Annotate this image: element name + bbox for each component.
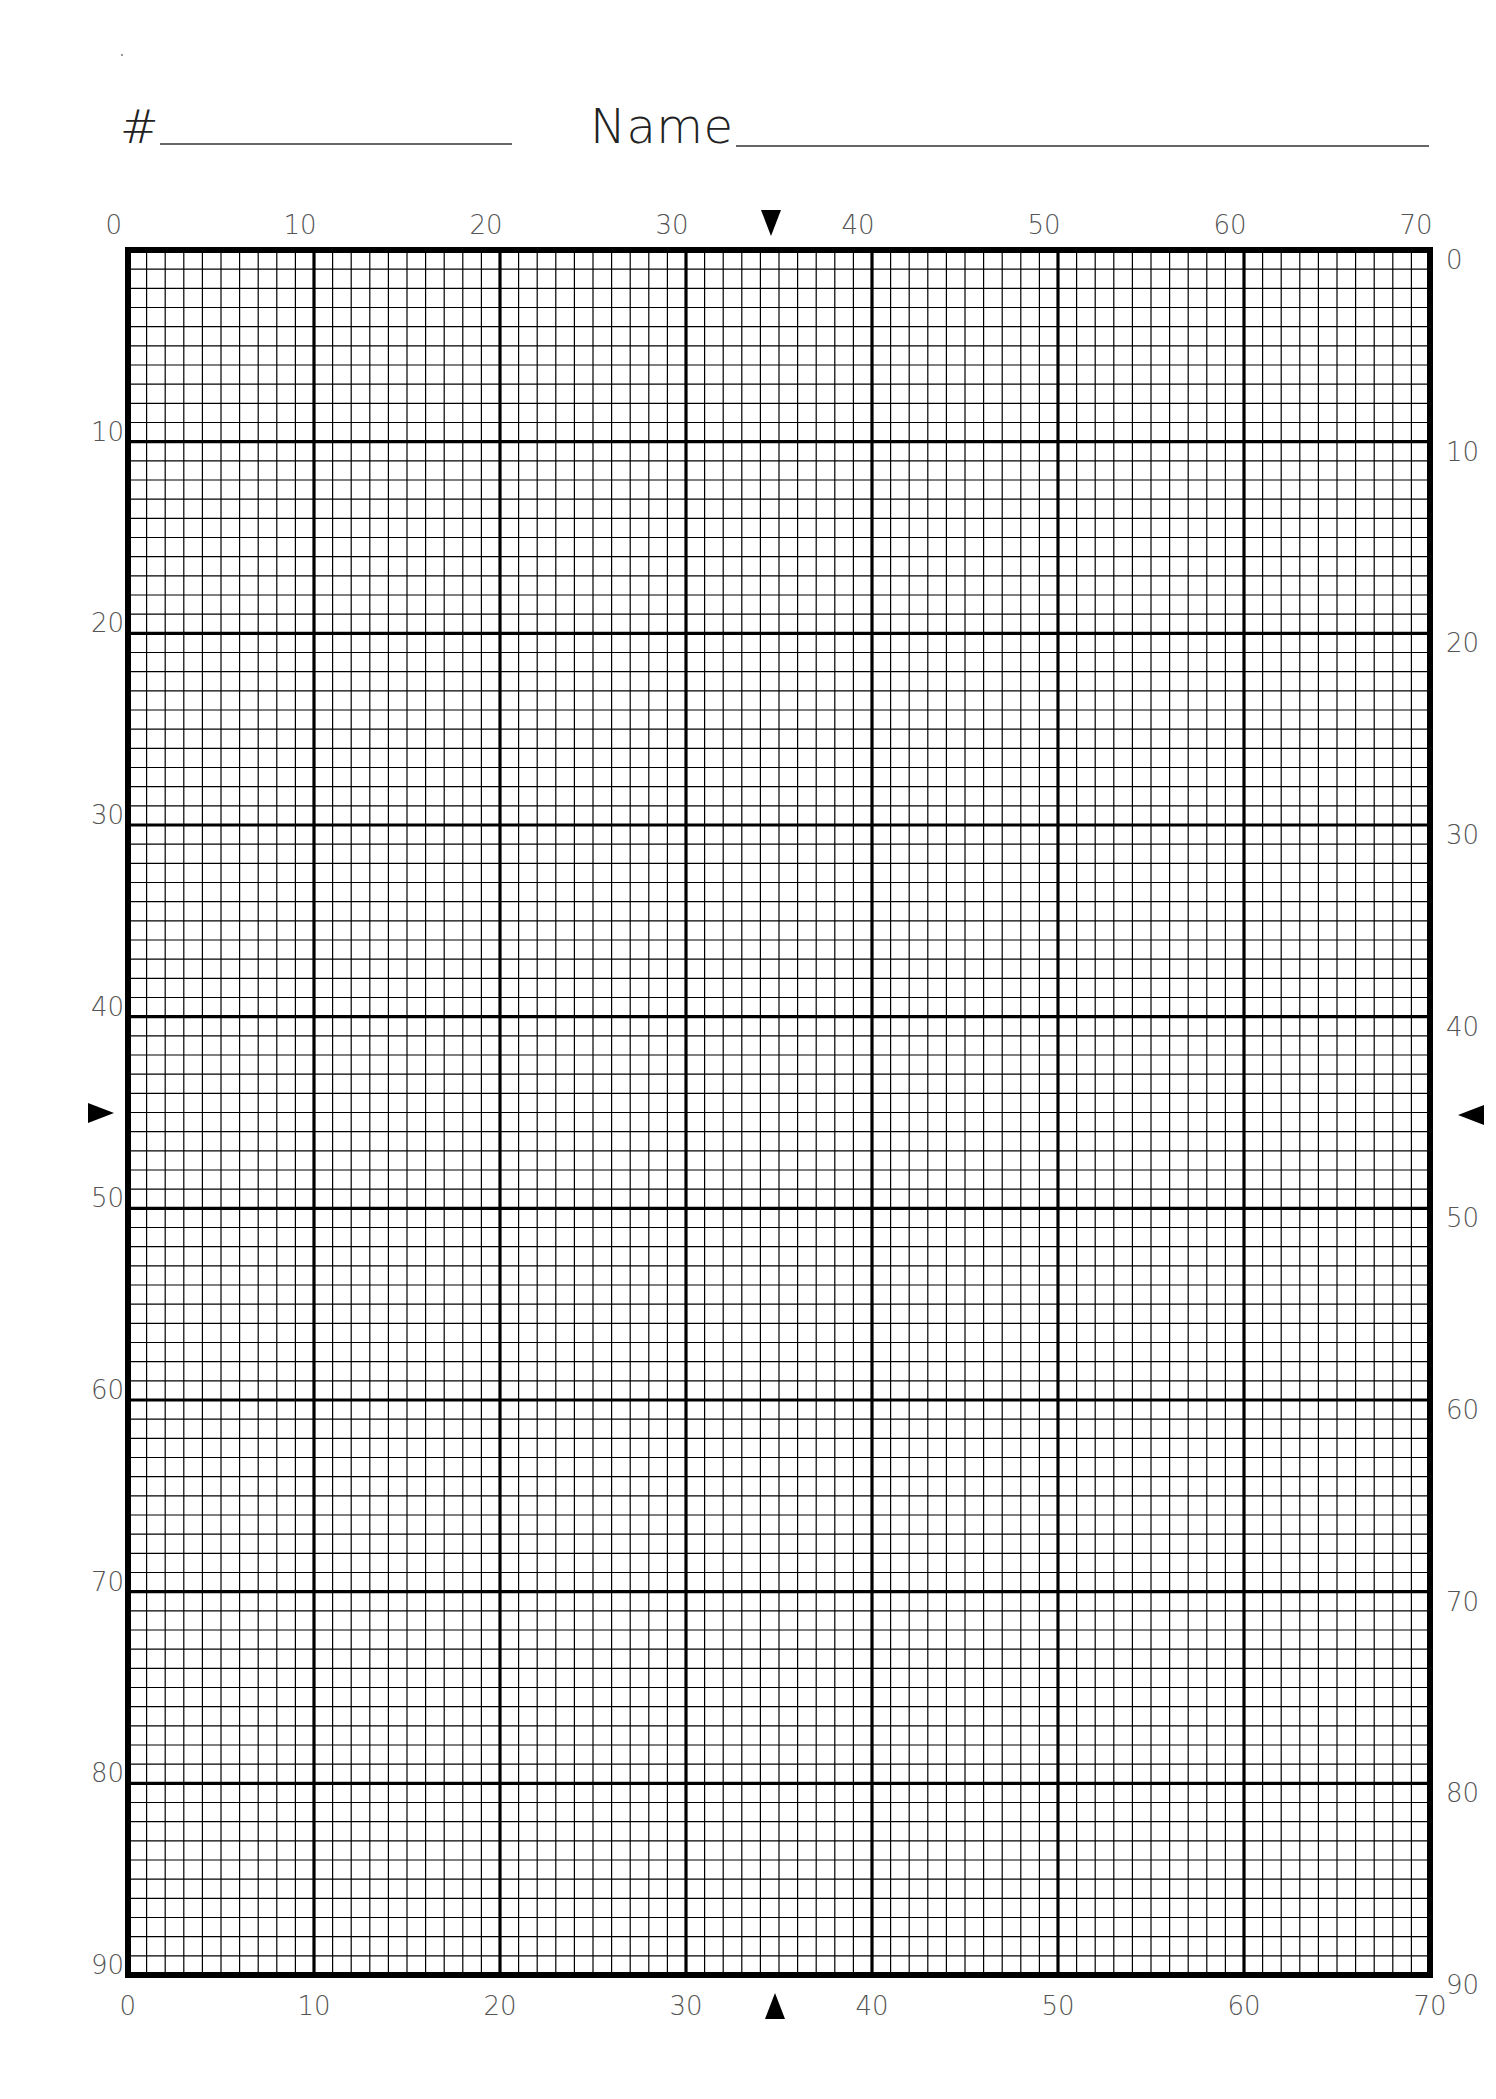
right-tick-20: 20 [1446, 630, 1479, 656]
right-tick-60: 60 [1446, 1397, 1479, 1423]
bottom-tick-10: 10 [298, 1993, 331, 2019]
center-marker-bottom-icon [765, 1993, 785, 2019]
top-tick-10: 10 [284, 212, 317, 238]
right-tick-70: 70 [1446, 1589, 1479, 1615]
center-marker-top-icon [761, 210, 781, 236]
left-tick-50: 50 [91, 1185, 124, 1211]
top-tick-0: 0 [106, 212, 123, 238]
bottom-tick-50: 50 [1042, 1993, 1075, 2019]
right-tick-0: 0 [1446, 247, 1463, 273]
bottom-tick-30: 30 [670, 1993, 703, 2019]
left-tick-60: 60 [91, 1377, 124, 1403]
bottom-tick-20: 20 [484, 1993, 517, 2019]
top-tick-50: 50 [1028, 212, 1061, 238]
top-tick-20: 20 [470, 212, 503, 238]
right-tick-90: 90 [1446, 1972, 1479, 1998]
top-tick-70: 70 [1400, 212, 1433, 238]
left-tick-80: 80 [91, 1760, 124, 1786]
right-tick-40: 40 [1446, 1014, 1479, 1040]
left-tick-40: 40 [91, 994, 124, 1020]
left-tick-70: 70 [91, 1569, 124, 1595]
center-marker-left-icon [88, 1103, 114, 1123]
graph-grid [0, 0, 1496, 2099]
left-tick-10: 10 [91, 419, 124, 445]
top-tick-30: 30 [656, 212, 689, 238]
right-tick-30: 30 [1446, 822, 1479, 848]
top-tick-60: 60 [1214, 212, 1247, 238]
bottom-tick-70: 70 [1414, 1993, 1447, 2019]
center-marker-right-icon [1458, 1105, 1484, 1125]
bottom-tick-0: 0 [120, 1993, 137, 2019]
top-tick-40: 40 [842, 212, 875, 238]
left-tick-20: 20 [91, 610, 124, 636]
right-tick-10: 10 [1446, 439, 1479, 465]
bottom-tick-40: 40 [856, 1993, 889, 2019]
right-tick-50: 50 [1446, 1205, 1479, 1231]
bottom-tick-60: 60 [1228, 1993, 1261, 2019]
right-tick-80: 80 [1446, 1780, 1479, 1806]
left-tick-90: 90 [91, 1952, 124, 1978]
left-tick-30: 30 [91, 802, 124, 828]
